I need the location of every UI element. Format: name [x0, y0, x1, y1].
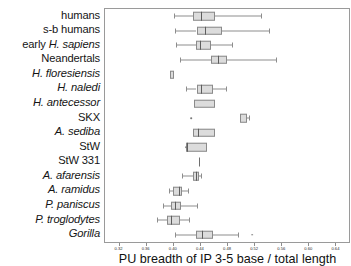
- whisker-cap-upper: [197, 203, 198, 208]
- category-label: s-b humans: [0, 24, 100, 35]
- boxplot-row: [105, 198, 349, 213]
- whisker-cap-lower: [163, 203, 164, 208]
- whisker-lower: [180, 59, 211, 60]
- axis-tick-label: 0.56: [277, 246, 285, 251]
- whisker-cap-upper: [189, 218, 190, 223]
- label-taxon: A. sediba: [55, 125, 100, 137]
- box-iqr: [197, 27, 223, 36]
- box-iqr: [240, 114, 247, 123]
- boxplot-row: [105, 9, 349, 24]
- box-iqr: [186, 143, 207, 152]
- boxplot-row: [105, 38, 349, 53]
- axis-tick-label: 0.52: [250, 246, 258, 251]
- category-label: A. sediba: [0, 126, 100, 137]
- category-label-column: humanss-b humansearly H. sapiensNeandert…: [0, 8, 100, 243]
- whisker-cap-lower: [169, 189, 170, 194]
- whisker-cap-upper: [249, 116, 250, 121]
- outlier-point: [186, 147, 188, 149]
- median-line: [196, 172, 197, 181]
- outlier-point: [190, 117, 192, 119]
- whisker-cap-upper: [238, 232, 239, 237]
- whisker-lower: [157, 220, 167, 221]
- axis-tick-label: 0.36: [142, 246, 150, 251]
- category-label: H. floresiensis: [0, 68, 100, 79]
- whisker-cap-lower: [174, 14, 175, 19]
- box-iqr: [197, 85, 213, 94]
- x-axis-title: PU breadth of IP 3-5 base / total length: [104, 253, 351, 266]
- whisker-cap-upper: [188, 189, 189, 194]
- median-line: [201, 85, 202, 94]
- category-label: P. paniscus: [0, 199, 100, 210]
- whisker-upper: [213, 89, 226, 90]
- boxplot-row: [105, 169, 349, 184]
- boxplot-row: [105, 111, 349, 126]
- whisker-cap-lower: [175, 28, 176, 33]
- plot-inner: [105, 9, 349, 242]
- whisker-upper: [227, 59, 276, 60]
- label-text: StW: [79, 140, 100, 152]
- label-taxon: H. sapiens: [49, 38, 100, 50]
- median-line: [200, 41, 201, 50]
- label-taxon: H. naledi: [57, 81, 100, 93]
- axis-tick-label: 0.48: [223, 246, 231, 251]
- whisker-cap-upper: [232, 43, 233, 48]
- median-line: [201, 12, 202, 21]
- boxplot-row: [105, 155, 349, 170]
- whisker-cap-upper: [269, 28, 270, 33]
- box-iqr: [167, 216, 179, 225]
- whisker-cap-lower: [186, 87, 187, 92]
- whisker-upper: [215, 16, 261, 17]
- median-line: [179, 187, 180, 196]
- whisker-cap-lower: [157, 218, 158, 223]
- whisker-lower: [182, 176, 193, 177]
- whisker-cap-upper: [226, 87, 227, 92]
- box-iqr: [173, 187, 182, 196]
- whisker-lower: [186, 89, 196, 90]
- whisker-upper: [222, 30, 269, 31]
- whisker-cap-upper: [261, 14, 262, 19]
- label-text: SKX: [78, 111, 100, 123]
- median-line: [187, 143, 188, 152]
- whisker-cap-lower: [180, 57, 181, 62]
- category-label: Gorilla: [0, 228, 100, 239]
- category-label: P. troglodytes: [0, 214, 100, 225]
- whisker-cap-lower: [175, 232, 176, 237]
- axis-tick-label: 0.40: [169, 246, 177, 251]
- category-label: H. antecessor: [0, 97, 100, 108]
- whisker-lower: [176, 45, 196, 46]
- axis-tick-label: 0.60: [304, 246, 312, 251]
- label-text: StW 331: [58, 154, 100, 166]
- label-text: s-b humans: [43, 23, 100, 35]
- boxplot-row: [105, 213, 349, 228]
- whisker-upper: [180, 220, 189, 221]
- boxplot-row: [105, 227, 349, 242]
- boxplot-row: [105, 184, 349, 199]
- boxplot-row: [105, 23, 349, 38]
- category-label: A. ramidus: [0, 184, 100, 195]
- median-line: [198, 129, 199, 138]
- median-line: [171, 216, 172, 225]
- outlier-point: [251, 234, 253, 236]
- category-label: SKX: [0, 112, 100, 123]
- boxplot-figure: humanss-b humansearly H. sapiensNeandert…: [0, 0, 351, 266]
- label-taxon: H. antecessor: [33, 96, 100, 108]
- axis-tick-label: 0.44: [196, 246, 204, 251]
- category-label: StW 331: [0, 155, 100, 166]
- box-iqr: [170, 70, 174, 79]
- category-label: H. naledi: [0, 82, 100, 93]
- label-text: early: [22, 38, 48, 50]
- label-taxon: A. afarensis: [43, 169, 100, 181]
- box-iqr: [196, 41, 212, 50]
- whisker-cap-upper: [276, 57, 277, 62]
- label-taxon: Gorilla: [69, 227, 100, 239]
- median-line: [199, 157, 200, 166]
- whisker-cap-upper: [201, 174, 202, 179]
- category-label: A. afarensis: [0, 170, 100, 181]
- whisker-upper: [211, 45, 231, 46]
- whisker-upper: [213, 234, 238, 235]
- category-label: StW: [0, 141, 100, 152]
- median-line: [205, 27, 206, 36]
- label-text: Neandertals: [41, 52, 100, 64]
- whisker-lower: [175, 234, 195, 235]
- median-line: [202, 230, 203, 239]
